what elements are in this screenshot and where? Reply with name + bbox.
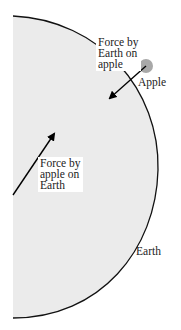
label-earth: Earth bbox=[136, 246, 161, 257]
label-line: Earth bbox=[40, 180, 81, 191]
label-line: apple bbox=[98, 59, 139, 70]
diagram-canvas bbox=[0, 0, 181, 330]
label-force-on-apple: Force by Earth on apple bbox=[96, 36, 141, 71]
label-apple: Apple bbox=[138, 77, 166, 88]
label-force-on-earth: Force by apple on Earth bbox=[38, 157, 83, 192]
